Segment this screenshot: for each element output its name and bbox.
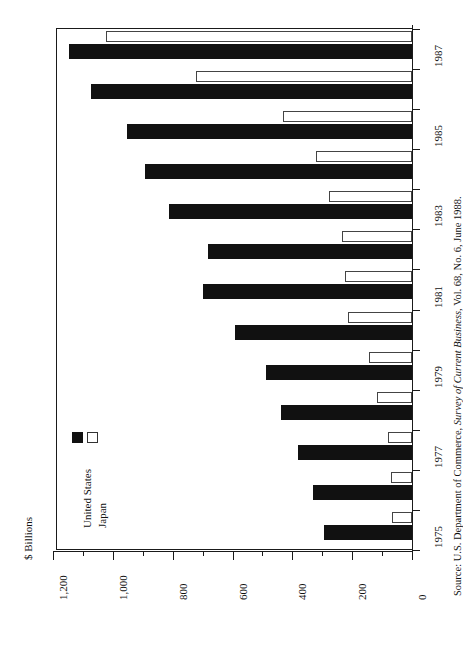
source-note: Source: U.S. Department of Commerce, Sur…: [452, 196, 463, 596]
bar-united-states-1983: [169, 204, 412, 219]
scale-tick-label: 400: [296, 584, 308, 601]
category-tick: [412, 510, 420, 511]
category-tick: [412, 29, 420, 30]
category-tick: [412, 310, 420, 311]
bar-japan-1984: [316, 151, 412, 162]
scale-tick-minor: [203, 551, 204, 556]
bar-united-states-1975: [324, 525, 412, 540]
legend: United States Japan: [72, 432, 112, 532]
scale-tick-major: [53, 551, 54, 560]
bar-japan-1980: [348, 312, 412, 323]
legend-swatch-united-states: [72, 432, 83, 443]
bar-united-states-1986: [91, 84, 412, 99]
year-label-1977: 1977: [432, 446, 444, 468]
value-axis-baseline: [412, 25, 413, 553]
category-tick: [412, 430, 420, 431]
legend-label-japan: Japan: [96, 503, 108, 528]
year-label-1983: 1983: [432, 205, 444, 227]
scale-tick-label: 1,200: [57, 575, 69, 600]
bar-japan-1985: [283, 111, 412, 122]
bar-japan-1987: [106, 31, 412, 42]
scale-tick-minor: [262, 551, 263, 556]
source-publication-title: Survey of Current Business: [452, 311, 463, 425]
category-tick: [412, 109, 420, 110]
year-label-1987: 1987: [432, 45, 444, 67]
bar-united-states-1980: [235, 325, 412, 340]
bar-japan-1981: [345, 271, 412, 282]
bar-japan-1975: [392, 512, 412, 523]
category-tick: [412, 149, 420, 150]
legend-label-united-states: United States: [81, 469, 93, 528]
bar-united-states-1987: [69, 44, 412, 59]
bar-japan-1986: [196, 71, 412, 82]
bar-japan-1979: [369, 352, 412, 363]
category-tick: [412, 350, 420, 351]
scale-tick-major: [113, 551, 114, 560]
bar-united-states-1982: [208, 244, 412, 259]
category-tick: [412, 189, 420, 190]
bar-united-states-1977: [298, 445, 412, 460]
scale-tick-major: [233, 551, 234, 560]
source-suffix: , Vol. 68, No. 6, June 1988.: [452, 196, 463, 311]
legend-swatch-japan: [87, 432, 98, 443]
scale-tick-major: [173, 551, 174, 560]
bar-united-states-1981: [203, 284, 412, 299]
scale-tick-label: 600: [237, 584, 249, 601]
scale-tick-label: 800: [177, 584, 189, 601]
bar-japan-1982: [342, 231, 412, 242]
scale-tick-major: [412, 551, 413, 560]
scale-tick-minor: [322, 551, 323, 556]
scale-tick-major: [292, 551, 293, 560]
bar-united-states-1984: [145, 164, 412, 179]
bar-japan-1983: [329, 191, 412, 202]
bar-japan-1978: [377, 392, 412, 403]
year-label-1981: 1981: [432, 286, 444, 308]
year-label-1975: 1975: [432, 526, 444, 548]
figure-page: 1,2001,0008006004002000 1975197719791981…: [0, 0, 463, 645]
scale-tick-minor: [382, 551, 383, 556]
category-tick: [412, 550, 420, 551]
scale-tick-minor: [143, 551, 144, 556]
category-tick: [412, 470, 420, 471]
bar-united-states-1976: [313, 485, 412, 500]
bar-united-states-1978: [281, 405, 412, 420]
bar-japan-1977: [388, 432, 412, 443]
scale-tick-major: [352, 551, 353, 560]
bar-japan-1976: [391, 472, 412, 483]
scale-tick-label: 1,000: [117, 575, 129, 600]
category-tick: [412, 229, 420, 230]
year-label-1985: 1985: [432, 125, 444, 147]
bar-united-states-1985: [127, 124, 412, 139]
scale-tick-label: 200: [356, 584, 368, 601]
year-label-1979: 1979: [432, 366, 444, 388]
bar-united-states-1979: [266, 365, 412, 380]
scale-tick-label: 0: [416, 595, 428, 601]
scale-tick-minor: [83, 551, 84, 556]
category-tick: [412, 269, 420, 270]
value-axis-title: $ Billions: [22, 517, 34, 560]
category-tick: [412, 390, 420, 391]
source-prefix: Source: U.S. Department of Commerce,: [452, 425, 463, 596]
category-tick: [412, 69, 420, 70]
